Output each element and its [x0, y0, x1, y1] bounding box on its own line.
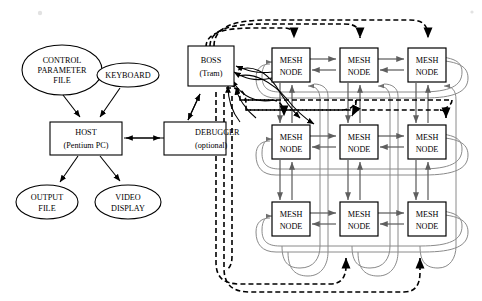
host-label-line1: HOST — [75, 128, 96, 137]
artifact-speck — [38, 11, 42, 15]
keyboard-label: KEYBOARD — [105, 71, 151, 80]
boss-box[interactable] — [188, 46, 234, 86]
boss-label-line2: (Tram) — [200, 69, 223, 78]
video-display-ellipse[interactable] — [95, 185, 161, 219]
output-file-line2: FILE — [38, 204, 55, 213]
mesh-node-label-r2c2-line1: MESH — [416, 210, 439, 219]
debugger-label-line2: (optional) — [195, 141, 228, 150]
mesh-node-label-r1c1-line2: NODE — [348, 145, 371, 154]
mesh-node-label-r0c2-line1: MESH — [416, 56, 439, 65]
control-parameter-file-line3: FILE — [53, 76, 70, 85]
mesh-node-label-r0c2-line2: NODE — [416, 68, 439, 77]
video-display-line2: DISPLAY — [111, 204, 145, 213]
mesh-node-label-r0c1-line1: MESH — [348, 56, 371, 65]
mesh-node-label-r1c2-line1: MESH — [416, 133, 439, 142]
control-parameter-file-line1: CONTROL — [43, 56, 82, 65]
mesh-node-label-r0c0-line2: NODE — [280, 68, 303, 77]
mesh-node-label-r0c1-line2: NODE — [348, 68, 371, 77]
mesh-node-label-r2c1-line2: NODE — [348, 222, 371, 231]
host-label-line2: (Pentium PC) — [64, 141, 109, 150]
diagram-svg: CONTROL PARAMETER FILE KEYBOARD HOST (Pe… — [0, 0, 482, 301]
diagram-canvas: CONTROL PARAMETER FILE KEYBOARD HOST (Pe… — [0, 0, 482, 301]
output-file-line1: OUTPUT — [31, 193, 63, 202]
video-display-line1: VIDEO — [115, 193, 141, 202]
mesh-node-label-r0c0-line1: MESH — [280, 56, 303, 65]
mesh-node-label-r1c0-line2: NODE — [280, 145, 303, 154]
mesh-node-label-r1c2-line2: NODE — [416, 145, 439, 154]
mesh-node-label-r1c1-line1: MESH — [348, 133, 371, 142]
debugger-box[interactable] — [164, 122, 226, 155]
mesh-wraparound-links — [256, 56, 468, 276]
mesh-node-label-r2c2-line2: NODE — [416, 222, 439, 231]
artifact-speck-2 — [470, 10, 473, 13]
output-file-ellipse[interactable] — [16, 185, 78, 219]
debugger-label-line1: DEBUGGER — [195, 128, 240, 137]
host-box[interactable] — [50, 122, 122, 155]
mesh-node-label-r1c0-line1: MESH — [280, 133, 303, 142]
boss-label-line1: BOSS — [201, 56, 222, 65]
mesh-node-label-r2c1-line1: MESH — [348, 210, 371, 219]
control-parameter-file-line2: PARAMETER — [38, 66, 87, 75]
mesh-node-label-r2c0-line1: MESH — [280, 210, 303, 219]
mesh-node-label-r2c0-line2: NODE — [280, 222, 303, 231]
